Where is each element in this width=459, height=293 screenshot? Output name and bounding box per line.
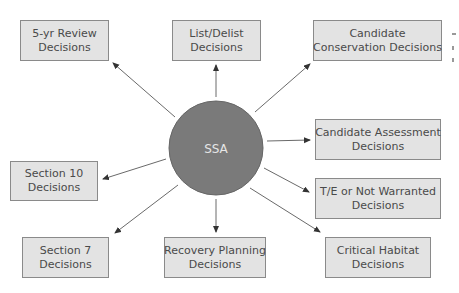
ssa-hub-label: SSA	[170, 142, 262, 156]
node-label-line2: Decisions	[190, 41, 243, 55]
arrow-to-candidate-conservation	[255, 64, 310, 112]
arrow-to-section-10	[103, 159, 166, 179]
node-label-line1: Section 10	[25, 167, 83, 181]
node-label-line2: Decisions	[352, 199, 405, 213]
node-candidate-assessment: Candidate Assessment Decisions	[315, 119, 441, 160]
node-list-delist: List/Delist Decisions	[172, 20, 261, 61]
node-label-line1: Recovery Planning	[164, 244, 266, 258]
node-label-line1: Section 7	[40, 244, 91, 258]
node-label-line2: Decisions	[352, 258, 405, 272]
node-label-line2: Decisions	[38, 41, 91, 55]
node-label-line1: 5-yr Review	[32, 27, 97, 41]
cropped-text-fragment	[452, 58, 454, 62]
node-critical-habitat: Critical Habitat Decisions	[325, 237, 431, 278]
node-recovery-planning: Recovery Planning Decisions	[164, 237, 266, 278]
node-candidate-conservation: Candidate Conservation Decisions	[313, 20, 442, 61]
node-label-line2: Decisions	[28, 181, 81, 195]
node-label-line2: Decisions	[189, 258, 242, 272]
node-label-line1: Critical Habitat	[337, 244, 419, 258]
arrow-to-five-yr-review	[113, 63, 175, 117]
node-section-10: Section 10 Decisions	[10, 161, 98, 201]
node-label-line2: Conservation Decisions	[313, 41, 442, 55]
cropped-text-fragment	[452, 46, 454, 50]
node-label-line2: Decisions	[39, 258, 92, 272]
cropped-text-fragment	[452, 33, 456, 35]
node-label-line1: Candidate	[349, 27, 405, 41]
node-label-line1: Candidate Assessment	[315, 126, 441, 140]
node-te-not-warranted: T/E or Not Warranted Decisions	[315, 178, 441, 219]
node-label-line1: List/Delist	[189, 27, 243, 41]
arrow-to-critical-habitat	[250, 188, 320, 232]
node-label-line1: T/E or Not Warranted	[320, 185, 436, 199]
node-label-line2: Decisions	[352, 140, 405, 154]
arrow-to-candidate-assessment	[267, 140, 310, 141]
arrow-to-te-not-warranted	[264, 168, 309, 192]
arrow-to-section-7	[115, 185, 178, 233]
node-five-yr-review: 5-yr Review Decisions	[20, 20, 109, 61]
node-section-7: Section 7 Decisions	[22, 237, 109, 278]
